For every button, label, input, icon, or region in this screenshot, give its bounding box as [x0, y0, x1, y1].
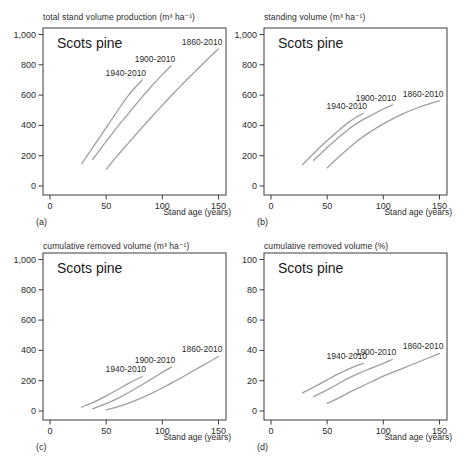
species-annotation: Scots pine [278, 260, 344, 276]
x-axis-label-d: Stand age (years) [264, 432, 452, 442]
x-axis-label-c: Stand age (years) [43, 432, 231, 442]
y-tick-label: 800 [242, 60, 257, 70]
series-label-1860-2010: 1860-2010 [182, 344, 223, 354]
series-curve-1900-2010 [314, 105, 393, 160]
y-tick-label: 60 [247, 315, 257, 325]
series-label-1900-2010: 1900-2010 [135, 355, 176, 365]
series-curve-1940-2010 [82, 80, 143, 164]
y-tick-label: 800 [21, 285, 36, 295]
series-label-1860-2010: 1860-2010 [182, 37, 223, 47]
y-tick-label: 0 [252, 181, 257, 191]
y-tick-label: 0 [252, 406, 257, 416]
series-label-1900-2010: 1900-2010 [356, 347, 397, 357]
series-label-1860-2010: 1860-2010 [403, 341, 444, 351]
y-axis-title-d: cumulative removed volume (%) [264, 241, 388, 251]
y-tick-label: 40 [247, 345, 257, 355]
species-annotation: Scots pine [278, 35, 344, 51]
plot-frame [264, 253, 447, 420]
y-axis-title-a: total stand volume production (m³ ha⁻¹) [43, 12, 195, 22]
y-tick-label: 200 [21, 376, 36, 386]
y-axis-title-b: standing volume (m³ ha⁻¹) [264, 12, 365, 22]
panel-d: 020406080100050100150Scots pine1940-2010… [221, 225, 467, 468]
panel-b: 02004006008001,000050100150Scots pine194… [221, 0, 467, 243]
y-tick-label: 100 [242, 255, 257, 265]
series-label-1940-2010: 1940-2010 [105, 68, 146, 78]
series-label-1900-2010: 1900-2010 [135, 54, 176, 64]
y-tick-label: 600 [242, 90, 257, 100]
y-tick-label: 400 [21, 120, 36, 130]
y-tick-label: 20 [247, 376, 257, 386]
y-tick-label: 1,000 [234, 30, 257, 40]
y-axis-title-c: cumulative removed volume (m³ ha⁻¹) [43, 241, 189, 251]
plot-frame [43, 253, 226, 420]
y-tick-label: 600 [21, 90, 36, 100]
y-tick-label: 0 [31, 406, 36, 416]
species-annotation: Scots pine [57, 260, 123, 276]
series-curve-1940-2010 [303, 363, 364, 393]
series-curve-1940-2010 [82, 377, 143, 408]
y-tick-label: 200 [242, 151, 257, 161]
y-tick-label: 1,000 [13, 255, 36, 265]
y-tick-label: 600 [21, 315, 36, 325]
four-panel-scots-pine-figure: 02004006008001,000050100150Scots pine194… [0, 0, 467, 468]
y-tick-label: 800 [21, 60, 36, 70]
series-curve-1940-2010 [303, 113, 364, 165]
y-tick-label: 200 [21, 151, 36, 161]
y-tick-label: 1,000 [13, 30, 36, 40]
plot-frame [264, 28, 447, 195]
y-tick-label: 80 [247, 285, 257, 295]
series-label-1940-2010: 1940-2010 [105, 364, 146, 374]
series-label-1900-2010: 1900-2010 [356, 93, 397, 103]
x-axis-label-a: Stand age (years) [43, 207, 231, 217]
y-tick-label: 400 [21, 345, 36, 355]
series-curve-1900-2010 [93, 66, 172, 160]
x-axis-label-b: Stand age (years) [264, 207, 452, 217]
panel-a: 02004006008001,000050100150Scots pine194… [0, 0, 246, 243]
series-label-1860-2010: 1860-2010 [403, 89, 444, 99]
panel-letter-d: (d) [257, 442, 268, 452]
panel-letter-c: (c) [36, 442, 47, 452]
y-tick-label: 400 [242, 120, 257, 130]
panel-c: 02004006008001,000050100150Scots pine194… [0, 225, 246, 468]
y-tick-label: 0 [31, 181, 36, 191]
species-annotation: Scots pine [57, 35, 123, 51]
